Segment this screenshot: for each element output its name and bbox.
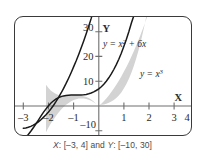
y-tick-label-20: 20: [83, 51, 94, 62]
y-tick-label-10: 10: [83, 76, 94, 87]
x-tick-label-1: 1: [121, 112, 126, 123]
caption-x-range: : [–3, 4] and: [59, 140, 108, 150]
x-tick-label-2: 2: [146, 112, 151, 123]
x-tick-label-neg2: –2: [42, 112, 54, 123]
curve-label-cubic-exponent: 3: [159, 68, 164, 75]
x-tick-label-3: 3: [171, 112, 176, 123]
x-tick-label-neg3: –3: [17, 112, 29, 123]
y-tick-label-30: 30: [83, 22, 94, 33]
caption-y-range: : [–10, 30]: [113, 140, 152, 150]
y-axis-name: Y: [103, 23, 111, 34]
curve-label-parabola-lhs: y = x: [102, 39, 123, 49]
curve-label-parabola: y = x2 + 6x: [102, 38, 147, 49]
plot-frame: Y X 30 20 10 –10 –3 –2 –1 1 2 3 4 y = x2…: [14, 16, 192, 136]
graph-figure: Y X 30 20 10 –10 –3 –2 –1 1 2 3 4 y = x2…: [0, 0, 205, 163]
x-axis-name: X: [175, 92, 183, 103]
plot-canvas: Y X 30 20 10 –10 –3 –2 –1 1 2 3 4 y = x2…: [15, 17, 191, 135]
curve-label-cubic-lhs: y = x: [139, 69, 160, 79]
range-caption: X: [–3, 4] and Y: [–10, 30]: [0, 140, 205, 150]
curve-label-cubic: y = x3: [139, 68, 164, 79]
y-tick-label-neg10: –10: [79, 119, 96, 130]
curve-label-parabola-rhs: + 6x: [126, 39, 147, 49]
x-tick-label-4: 4: [184, 112, 190, 123]
x-tick-label-neg1: –1: [67, 112, 79, 123]
